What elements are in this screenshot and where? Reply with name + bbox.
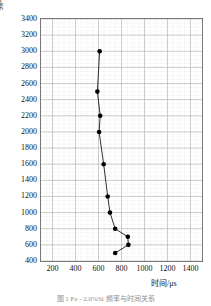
y-axis-tick-label: 1200 bbox=[3, 192, 37, 200]
x-axis-tick-label: 1400 bbox=[171, 265, 211, 273]
figure-caption: 图 1 Fe - 2.0%Si 频率与时间关系 bbox=[0, 295, 211, 303]
y-axis-tick-label: 1000 bbox=[3, 209, 37, 217]
y-axis-tick-label: 2400 bbox=[3, 96, 37, 104]
x-axis-title: 时间/μs bbox=[151, 279, 177, 288]
y-axis-tick-label: 3200 bbox=[3, 31, 37, 39]
y-axis-tick-label: 1600 bbox=[3, 160, 37, 168]
y-axis-tick-label: 2600 bbox=[3, 80, 37, 88]
axis-labels-layer: 3400320030002800260024002200200018001600… bbox=[0, 0, 211, 306]
y-axis-tick-label: 2200 bbox=[3, 112, 37, 120]
y-axis-tick-label: 400 bbox=[3, 257, 37, 265]
y-axis-tick-label: 3400 bbox=[3, 15, 37, 23]
y-axis-tick-label: 600 bbox=[3, 241, 37, 249]
y-axis-tick-label: 3000 bbox=[3, 47, 37, 55]
y-axis-tick-label: 2000 bbox=[3, 128, 37, 136]
y-axis-tick-label: 800 bbox=[3, 225, 37, 233]
y-axis-tick-label: 1400 bbox=[3, 176, 37, 184]
figure-frequency-vs-time: 频率/Hz 3400320030002800260024002200200018… bbox=[0, 0, 211, 306]
y-axis-tick-label: 2800 bbox=[3, 63, 37, 71]
y-axis-tick-label: 1800 bbox=[3, 144, 37, 152]
